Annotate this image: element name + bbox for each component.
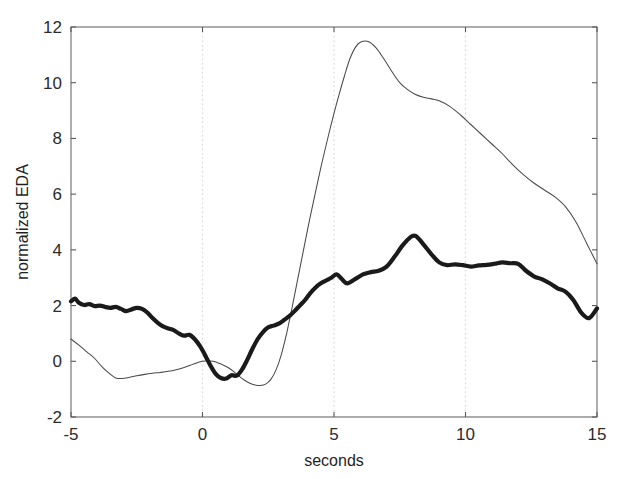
figure-container: -5051015-2024681012 normalized EDA secon… bbox=[0, 0, 633, 479]
ytick-label-6: 6 bbox=[53, 185, 62, 204]
x-axis-label: seconds bbox=[304, 452, 364, 469]
xtick-label--5: -5 bbox=[63, 425, 78, 444]
ytick-label-10: 10 bbox=[43, 74, 62, 93]
line-chart: -5051015-2024681012 normalized EDA secon… bbox=[0, 0, 633, 479]
ytick-label-2: 2 bbox=[53, 297, 62, 316]
xtick-label-10: 10 bbox=[456, 425, 475, 444]
gridlines-group bbox=[203, 27, 466, 417]
ytick-label--2: -2 bbox=[47, 408, 62, 427]
ytick-label-8: 8 bbox=[53, 129, 62, 148]
ytick-label-4: 4 bbox=[53, 241, 62, 260]
ytick-label-12: 12 bbox=[43, 18, 62, 37]
xtick-label-15: 15 bbox=[588, 425, 607, 444]
xtick-label-0: 0 bbox=[198, 425, 207, 444]
ytick-label-0: 0 bbox=[53, 352, 62, 371]
y-axis-label: normalized EDA bbox=[14, 164, 31, 280]
tick-labels-group: -5051015-2024681012 bbox=[43, 18, 606, 444]
xtick-label-5: 5 bbox=[329, 425, 338, 444]
